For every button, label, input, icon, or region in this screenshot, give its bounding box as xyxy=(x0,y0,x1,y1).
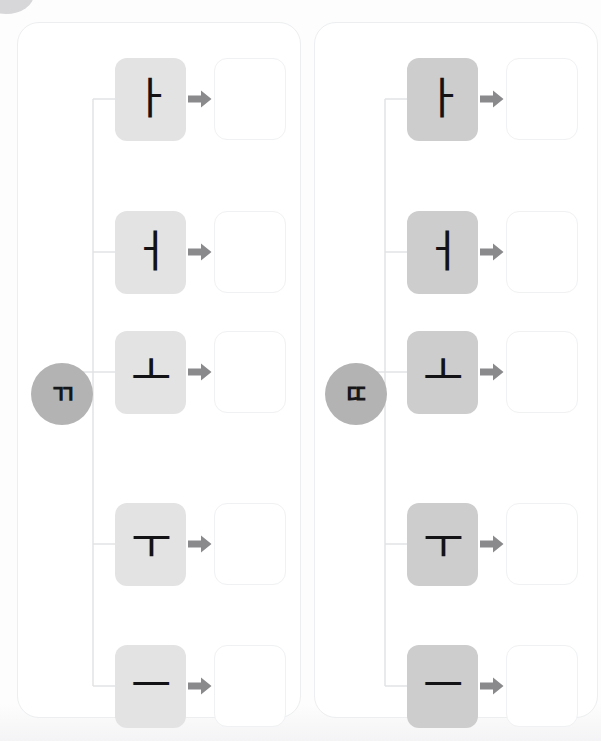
answer-box[interactable] xyxy=(214,331,286,413)
vowel-glyph: ㅗ xyxy=(423,350,463,394)
vowel-glyph: ㅜ xyxy=(131,522,171,566)
vowel-tile-eu[interactable]: ㅡ xyxy=(407,645,478,728)
answer-box[interactable] xyxy=(214,645,286,727)
arrow-right-icon xyxy=(186,673,214,699)
answer-box[interactable] xyxy=(506,503,578,585)
arrow-right-icon xyxy=(186,531,214,557)
answer-box[interactable] xyxy=(506,645,578,727)
row-ssang-giyeok-u: ㅜ xyxy=(115,501,286,587)
answer-box[interactable] xyxy=(506,58,578,140)
arrow-right-icon xyxy=(478,359,506,385)
vowel-tile-eo[interactable]: ㅓ xyxy=(115,211,186,294)
vowel-tile-a[interactable]: ㅏ xyxy=(115,58,186,141)
vowel-glyph: ㅗ xyxy=(131,350,171,394)
vowel-tile-eu[interactable]: ㅡ xyxy=(115,645,186,728)
arrow-right-icon xyxy=(186,359,214,385)
arrow-right-icon xyxy=(478,86,506,112)
consonant-circle-ssang-digeut[interactable]: ㄸ xyxy=(325,363,387,425)
vowel-glyph: ㅡ xyxy=(423,664,463,708)
vowel-glyph: ㅡ xyxy=(131,664,171,708)
vowel-tile-u[interactable]: ㅜ xyxy=(407,503,478,586)
row-ssang-digeut-o: ㅗ xyxy=(407,329,578,415)
row-ssang-digeut-eo: ㅓ xyxy=(407,209,578,295)
vowel-glyph: ㅓ xyxy=(423,230,463,274)
answer-box[interactable] xyxy=(214,211,286,293)
panel-ssang-digeut: ㄸ ㅏ ㅓ ㅗ xyxy=(314,22,598,718)
vowel-glyph: ㅏ xyxy=(423,77,463,121)
arrow-right-icon xyxy=(186,239,214,265)
vowel-tile-eo[interactable]: ㅓ xyxy=(407,211,478,294)
vowel-tile-u[interactable]: ㅜ xyxy=(115,503,186,586)
arrow-right-icon xyxy=(478,239,506,265)
answer-box[interactable] xyxy=(214,58,286,140)
arrow-right-icon xyxy=(478,531,506,557)
vowel-tile-o[interactable]: ㅗ xyxy=(407,331,478,414)
vowel-glyph: ㅓ xyxy=(131,230,171,274)
vowel-tile-o[interactable]: ㅗ xyxy=(115,331,186,414)
vowel-tile-a[interactable]: ㅏ xyxy=(407,58,478,141)
panel-ssang-giyeok: ㄲ ㅏ ㅓ ㅗ xyxy=(17,22,301,718)
row-ssang-giyeok-a: ㅏ xyxy=(115,56,286,142)
consonant-glyph: ㄸ xyxy=(344,381,368,408)
row-ssang-digeut-a: ㅏ xyxy=(407,56,578,142)
row-ssang-giyeok-eo: ㅓ xyxy=(115,209,286,295)
arrow-right-icon xyxy=(478,673,506,699)
row-ssang-giyeok-eu: ㅡ xyxy=(115,643,286,729)
consonant-glyph: ㄲ xyxy=(50,381,74,408)
row-ssang-digeut-u: ㅜ xyxy=(407,501,578,587)
vowel-glyph: ㅏ xyxy=(131,77,171,121)
hangul-worksheet: ㄲ ㅏ ㅓ ㅗ xyxy=(0,0,601,741)
consonant-circle-ssang-giyeok[interactable]: ㄲ xyxy=(31,363,93,425)
row-ssang-digeut-eu: ㅡ xyxy=(407,643,578,729)
answer-box[interactable] xyxy=(506,211,578,293)
answer-box[interactable] xyxy=(214,503,286,585)
answer-box[interactable] xyxy=(506,331,578,413)
arrow-right-icon xyxy=(186,86,214,112)
vowel-glyph: ㅜ xyxy=(423,522,463,566)
row-ssang-giyeok-o: ㅗ xyxy=(115,329,286,415)
